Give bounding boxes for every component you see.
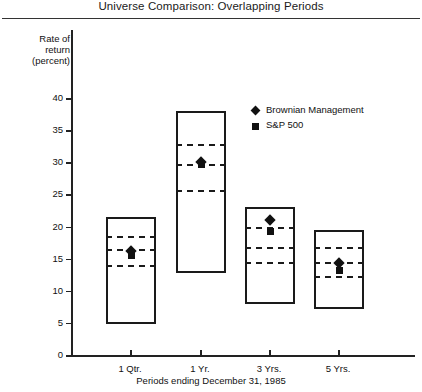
quartile-line — [314, 276, 364, 278]
y-tick — [66, 259, 71, 261]
x-tick — [269, 350, 271, 355]
y-tick-label: 35 — [31, 124, 63, 135]
box-plot-box — [106, 217, 156, 324]
legend-label: S&P 500 — [266, 119, 303, 130]
marker-square-sp500 — [336, 267, 343, 274]
quartile-line — [314, 247, 364, 249]
x-tick — [130, 350, 132, 355]
x-tick-label: 3 Yrs. — [239, 363, 299, 374]
y-axis-label-line3: (percent) — [8, 55, 70, 66]
y-tick — [66, 323, 71, 325]
marker-square-sp500 — [128, 252, 135, 259]
y-tick — [66, 355, 71, 357]
y-axis-label-line1: Rate of — [8, 33, 70, 44]
y-tick — [66, 194, 71, 196]
y-tick-label: 30 — [31, 156, 63, 167]
chart-figure: Universe Comparison: Overlapping Periods… — [0, 0, 422, 392]
marker-square-sp500 — [267, 228, 274, 235]
legend-label: Brownian Management — [266, 104, 364, 115]
y-tick-label: 10 — [31, 285, 63, 296]
x-tick — [338, 350, 340, 355]
x-tick-label: 5 Yrs. — [308, 363, 368, 374]
box-plot-box — [176, 111, 226, 274]
quartile-line — [106, 236, 156, 238]
x-tick-label: 1 Yr. — [170, 363, 230, 374]
y-tick — [66, 98, 71, 100]
y-tick-label: 20 — [31, 221, 63, 232]
y-tick-label: 0 — [31, 349, 63, 360]
x-tick-label: 1 Qtr. — [100, 363, 160, 374]
y-tick — [66, 130, 71, 132]
y-tick — [66, 291, 71, 293]
x-axis-label: Periods ending December 31, 1985 — [0, 375, 422, 386]
y-tick-label: 5 — [31, 317, 63, 328]
quartile-line — [245, 262, 295, 264]
y-tick — [66, 162, 71, 164]
y-tick-label: 25 — [31, 188, 63, 199]
y-tick-label: 15 — [31, 253, 63, 264]
title-divider — [2, 18, 420, 19]
y-axis-line — [71, 30, 73, 356]
legend-diamond-icon — [251, 106, 261, 116]
quartile-line — [176, 144, 226, 146]
quartile-line — [176, 190, 226, 192]
x-tick — [200, 350, 202, 355]
y-axis-label-line2: return — [8, 44, 70, 55]
legend-square-icon — [252, 123, 259, 130]
chart-title: Universe Comparison: Overlapping Periods — [0, 0, 422, 12]
marker-square-sp500 — [198, 161, 205, 168]
x-axis-line — [71, 355, 415, 357]
quartile-line — [245, 247, 295, 249]
y-tick — [66, 227, 71, 229]
quartile-line — [106, 265, 156, 267]
y-tick-label: 40 — [31, 92, 63, 103]
